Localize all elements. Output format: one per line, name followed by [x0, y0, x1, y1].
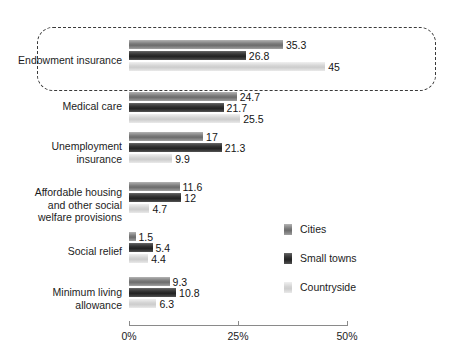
- bar-cities: [129, 182, 180, 191]
- x-axis-tick-mark: [347, 321, 348, 326]
- bar-countryside: [129, 114, 240, 123]
- category-label-line: insurance: [0, 153, 122, 166]
- category-label-line: Unemployment: [0, 140, 122, 153]
- bar-value-label: 25.5: [240, 113, 263, 124]
- x-axis-tick-label: 25%: [227, 330, 248, 342]
- bar-small-towns: [129, 243, 153, 252]
- bar-value-label: 12: [181, 192, 196, 203]
- category-label-line: Medical care: [0, 100, 122, 113]
- category-label-line: Affordable housing: [0, 186, 122, 199]
- legend-label: Cities: [300, 223, 326, 235]
- bar-value-label: 10.8: [176, 287, 199, 298]
- bar-value-label: 1.5: [136, 231, 154, 242]
- category-label-line: Social relief: [0, 245, 122, 258]
- horizontal-bar-chart: Endowment insurance35.326.845Medical car…: [0, 0, 454, 358]
- bar-value-label: 26.8: [246, 50, 269, 61]
- legend-swatch-icon: [284, 224, 292, 235]
- bar-cities: [129, 40, 283, 49]
- legend-label: Small towns: [300, 252, 357, 264]
- bar-value-label: 17: [203, 131, 218, 142]
- bar-small-towns: [129, 51, 246, 60]
- bar-countryside: [129, 204, 149, 213]
- bar-cities: [129, 92, 237, 101]
- x-axis-tick-label: 0%: [121, 330, 136, 342]
- bar-value-label: 45: [325, 61, 340, 72]
- bar-value-label: 21.3: [222, 142, 245, 153]
- bar-small-towns: [129, 193, 181, 202]
- bar-small-towns: [129, 103, 224, 112]
- bar-cities: [129, 132, 203, 141]
- category-label-line: allowance: [0, 299, 122, 312]
- bar-countryside: [129, 254, 148, 263]
- category-label: Unemploymentinsurance: [0, 140, 122, 165]
- bar-value-label: 35.3: [283, 39, 306, 50]
- bar-value-label: 9.9: [172, 153, 190, 164]
- category-label: Endowment insurance: [0, 54, 122, 67]
- category-label-line: and other social: [0, 199, 122, 212]
- category-label-line: Minimum living: [0, 286, 122, 299]
- bar-value-label: 4.4: [148, 253, 166, 264]
- legend-label: Countryside: [300, 281, 356, 293]
- legend-item-small-towns: Small towns: [284, 251, 357, 265]
- bar-countryside: [129, 62, 325, 71]
- bar-small-towns: [129, 143, 222, 152]
- category-label: Affordable housingand other socialwelfar…: [0, 186, 122, 224]
- legend-item-countryside: Countryside: [284, 280, 357, 294]
- bar-countryside: [129, 299, 156, 308]
- category-label: Social relief: [0, 245, 122, 258]
- category-label: Minimum livingallowance: [0, 286, 122, 311]
- category-label-line: Endowment insurance: [0, 54, 122, 67]
- legend-item-cities: Cities: [284, 222, 357, 236]
- bar-value-label: 6.3: [156, 298, 174, 309]
- x-axis-tick-mark: [238, 321, 239, 326]
- bar-small-towns: [129, 288, 176, 297]
- legend-swatch-icon: [284, 253, 292, 264]
- x-axis-tick-label: 50%: [336, 330, 357, 342]
- bar-cities: [129, 277, 170, 286]
- x-axis-tick-mark: [129, 321, 130, 326]
- chart-legend: CitiesSmall townsCountryside: [284, 222, 357, 294]
- legend-swatch-icon: [284, 282, 292, 293]
- bar-value-label: 4.7: [149, 203, 167, 214]
- category-label: Medical care: [0, 100, 122, 113]
- category-label-line: welfare provisions: [0, 211, 122, 224]
- bar-countryside: [129, 154, 172, 163]
